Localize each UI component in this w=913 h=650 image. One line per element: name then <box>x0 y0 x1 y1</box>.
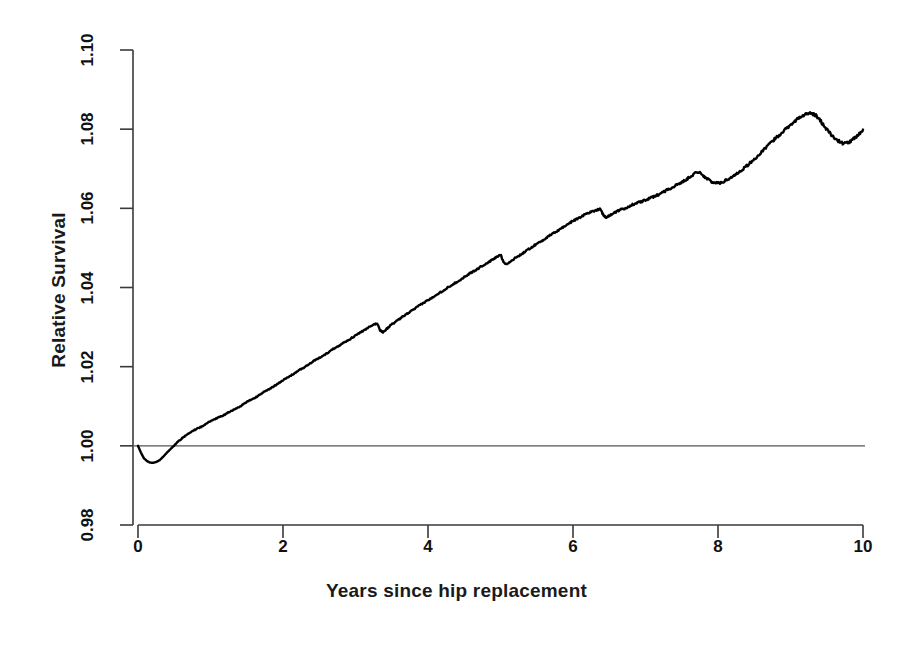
y-axis-tick-label: 1.10 <box>78 20 98 80</box>
x-axis-tick-label: 2 <box>263 537 303 557</box>
y-axis-tick-label: 1.00 <box>78 416 98 476</box>
x-axis-tick-label: 8 <box>698 537 738 557</box>
x-axis-ticks <box>138 525 863 538</box>
x-axis-tick-label: 4 <box>408 537 448 557</box>
y-axis-tick-label: 1.04 <box>78 258 98 318</box>
axes-group <box>120 50 863 538</box>
x-axis-tick-label: 6 <box>553 537 593 557</box>
y-axis-title: Relative Survival <box>48 30 74 550</box>
survival-curve-path <box>138 112 863 463</box>
figure-container: Years since hip replacement Relative Sur… <box>0 0 913 650</box>
y-axis-tick-label: 1.06 <box>78 178 98 238</box>
y-axis-tick-label: 1.02 <box>78 337 98 397</box>
y-axis-tick-label: 0.98 <box>78 495 98 555</box>
y-axis-ticks <box>120 50 133 525</box>
y-axis-tick-label: 1.08 <box>78 99 98 159</box>
x-axis-title: Years since hip replacement <box>0 580 913 602</box>
x-axis-tick-label: 0 <box>118 537 158 557</box>
x-axis-tick-label: 10 <box>843 537 883 557</box>
